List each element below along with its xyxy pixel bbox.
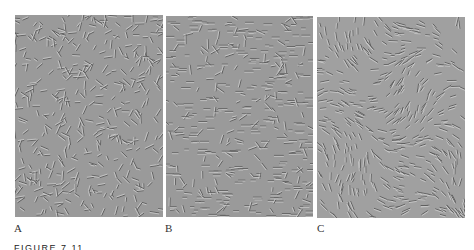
- panel-label-a: A: [14, 222, 22, 234]
- panel-label-b: B: [165, 222, 172, 234]
- panel-a-texture: [15, 15, 163, 217]
- panel-label-c: C: [317, 222, 324, 234]
- gabor-field-c: [317, 17, 465, 218]
- figure-caption: FIGURE 7.11: [14, 243, 84, 250]
- panel-b-texture: [166, 16, 313, 217]
- gabor-field-a: [15, 15, 163, 217]
- panel-c-texture: [317, 17, 465, 218]
- gabor-field-b: [166, 16, 313, 217]
